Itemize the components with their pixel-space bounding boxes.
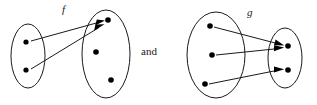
domain-element-g-2: [209, 52, 215, 58]
arrow-g-3-line: [209, 70, 279, 84]
arrow-f-2-line: [31, 28, 99, 70]
function-label-f: f: [62, 3, 67, 15]
domain-element-g-1: [207, 23, 213, 29]
codomain-element-f-3: [108, 77, 114, 83]
codomain-element-f-1: [105, 17, 111, 23]
conjunction-label: and: [141, 45, 157, 57]
arrow-g-2: [216, 45, 284, 55]
diagram-f: f: [11, 3, 130, 98]
codomain-ellipse-f: [82, 10, 130, 98]
codomain-element-g-2: [285, 67, 291, 73]
function-diagram-figure: f g and: [0, 0, 317, 105]
codomain-element-f-2: [93, 49, 99, 55]
domain-element-g-3: [202, 81, 208, 87]
diagram-canvas: f g: [0, 0, 317, 105]
arrow-g-2-head: [274, 45, 284, 51]
arrow-f-2-head: [94, 24, 105, 31]
arrow-g-1-line: [214, 27, 279, 44]
domain-ellipse-f: [11, 24, 45, 88]
arrow-g-3: [209, 67, 284, 84]
arrow-g-2-line: [216, 49, 279, 56]
domain-element-f-1: [23, 39, 28, 44]
arrow-g-1-head: [274, 40, 284, 46]
codomain-ellipse-g: [268, 28, 302, 88]
diagram-g: g: [187, 6, 302, 98]
domain-element-f-2: [23, 67, 28, 72]
arrow-f-1-line: [31, 22, 100, 41]
codomain-element-g-1: [285, 43, 291, 49]
function-label-g: g: [247, 6, 253, 18]
arrow-g-3-head: [274, 67, 284, 73]
